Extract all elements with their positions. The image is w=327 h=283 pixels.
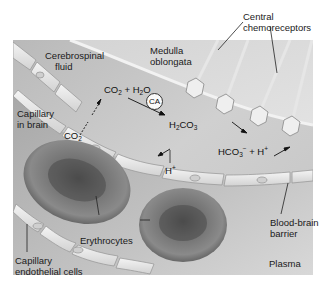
erythrocyte-small	[139, 188, 227, 262]
label-cerebrospinal-fluid: Cerebrospinal fluid	[45, 50, 104, 72]
chem-sup: +	[264, 145, 268, 152]
label-blood-brain-barrier: Blood-brain barrier	[270, 217, 319, 239]
label-line: Capillary	[15, 255, 83, 266]
label-line: Medulla	[150, 45, 192, 56]
label-line: in brain	[17, 119, 54, 130]
label-line: oblongata	[150, 56, 192, 67]
label-central-chemoreceptors: Central chemoreceptors	[243, 11, 311, 33]
chem-text: HCO	[218, 146, 239, 157]
blood-brain-barrier-diagram	[0, 0, 327, 283]
label-line: Cerebrospinal	[45, 50, 104, 61]
chem-text: H	[169, 119, 176, 130]
chem-sub: 3	[194, 124, 198, 131]
label-plasma: Plasma	[269, 258, 301, 269]
label-line: chemoreceptors	[243, 22, 311, 33]
label-line: fluid	[45, 61, 104, 72]
label-capillary-in-brain: Capillary in brain	[17, 108, 54, 130]
label-erythrocytes: Erythrocytes	[80, 235, 133, 246]
label-medulla-oblongata: Medulla oblongata	[150, 45, 192, 67]
chem-hco3-plus-h: HCO3− + H+	[218, 145, 268, 158]
chem-text: + H	[247, 146, 265, 157]
chem-text: CO	[104, 84, 118, 95]
chem-co2-blood: CO2	[64, 130, 82, 142]
chem-text: CO	[180, 119, 194, 130]
label-line: barrier	[270, 228, 319, 239]
chem-text: H	[165, 165, 172, 176]
label-line: Blood-brain	[270, 217, 319, 228]
label-line: Capillary	[17, 108, 54, 119]
chem-h-plus: H+	[165, 164, 176, 176]
label-line: Central	[243, 11, 311, 22]
carbonic-anhydrase-badge: CA	[146, 93, 163, 110]
chem-text: + H	[122, 84, 140, 95]
chem-sup: +	[172, 164, 176, 171]
label-capillary-endothelial-cells: Capillary endothelial cells	[15, 255, 83, 277]
label-line: endothelial cells	[15, 266, 83, 277]
chem-sub: 3	[239, 151, 243, 158]
chem-h2co3: H2CO3	[169, 119, 197, 131]
chem-sub: 2	[78, 135, 82, 142]
chem-co2-plus-h2o: CO2 + H2O	[104, 84, 151, 96]
chem-text: CO	[64, 130, 78, 141]
